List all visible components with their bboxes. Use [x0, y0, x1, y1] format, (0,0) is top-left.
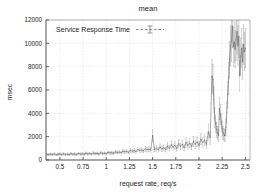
x-tick-label: 1.75: [170, 163, 183, 170]
x-tick-label: 2.25: [216, 163, 229, 170]
y-tick-label: 4000: [28, 110, 43, 117]
y-tick-label: 0: [38, 156, 42, 163]
y-tick-label: 6000: [28, 86, 43, 93]
y-tick-label: 2000: [28, 133, 43, 140]
y-tick-label: 10000: [24, 40, 42, 47]
x-tick-label: 1.25: [123, 163, 136, 170]
chart-title: mean: [139, 4, 158, 13]
x-tick-label: 2.5: [241, 163, 250, 170]
y-tick-label: 12000: [24, 16, 42, 23]
chart-screenshot: 0200040006000800010000120000.50.7511.251…: [0, 0, 266, 193]
chart-canvas: 0200040006000800010000120000.50.7511.251…: [0, 0, 266, 193]
legend-entry-label: Service Response Time: [56, 26, 130, 34]
y-axis-label: msec: [6, 83, 13, 100]
x-tick-label: 0.5: [56, 163, 65, 170]
x-tick-label: 1: [105, 163, 109, 170]
x-tick-label: 0.75: [77, 163, 90, 170]
x-tick-label: 1.5: [148, 163, 157, 170]
x-tick-label: 2: [197, 163, 201, 170]
x-axis-label: request rate, req/s: [120, 180, 177, 188]
y-tick-label: 8000: [28, 63, 43, 70]
